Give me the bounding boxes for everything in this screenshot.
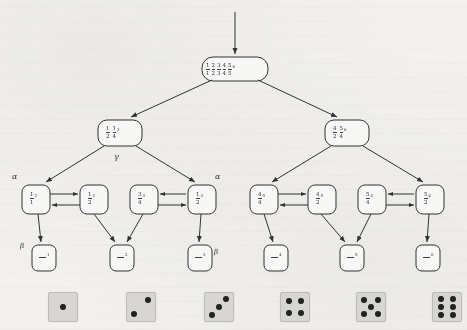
die-5-pip-2: [375, 297, 381, 303]
die-3-pip-1: [223, 296, 229, 302]
node-root-box: [202, 57, 268, 81]
die-5-pip-5: [375, 311, 381, 317]
node-l3-3-box: [130, 185, 158, 214]
node-leaf-3-box: [188, 245, 212, 271]
edge-l2right-l3-5: [272, 146, 331, 182]
node-l2-left-box: [98, 120, 142, 146]
edge-root-l2right: [258, 80, 337, 117]
node-leaf-5-box: [340, 245, 364, 271]
die-face-5: [356, 292, 386, 322]
die-face-2: [126, 292, 156, 322]
node-leaf-1-box: [32, 245, 56, 271]
node-l3-6-box: [308, 185, 336, 214]
node-l3-2-box: [80, 185, 108, 214]
die-2-pip-2: [131, 311, 137, 317]
node-l2-right-box: [325, 120, 369, 146]
edge-root-l2left: [131, 80, 212, 117]
edge-l3-8-leaf-6: [427, 214, 429, 242]
edge-l3-2-leaf-2: [94, 214, 115, 242]
edge-l2left-l3-1: [46, 146, 104, 182]
edge-l3-3-leaf-2: [127, 214, 143, 242]
die-face-4: [280, 292, 310, 322]
die-6-pip-1: [438, 296, 444, 302]
die-4-pip-3: [286, 310, 292, 316]
node-l3-1-box: [22, 185, 50, 214]
edge-l3-7-leaf-5: [357, 214, 371, 242]
die-6-pip-2: [450, 296, 456, 302]
node-l3-4-box: [188, 185, 216, 214]
die-2-pip-1: [145, 297, 151, 303]
die-6-pip-4: [450, 304, 456, 310]
die-6-pip-5: [438, 312, 444, 318]
node-l3-8-box: [416, 185, 444, 214]
edge-l2left-l3-4: [136, 146, 195, 182]
edge-l3-6-leaf-5: [321, 214, 345, 242]
die-3-pip-2: [216, 304, 222, 310]
figure-canvas: 11223344556 12143 42546 112 122 343 123 …: [0, 0, 467, 330]
die-5-pip-1: [361, 297, 367, 303]
edge-l3-5-leaf-4: [264, 214, 273, 242]
node-leaf-2-box: [110, 245, 134, 271]
die-1-pip-1: [60, 304, 66, 310]
node-leaf-4-box: [264, 245, 288, 271]
die-6-pip-6: [450, 312, 456, 318]
diagram-svg: [0, 0, 467, 330]
node-l3-7-box: [358, 185, 386, 214]
die-face-3: [204, 292, 234, 322]
die-3-pip-3: [209, 312, 215, 318]
edge-l3-4-leaf-3: [199, 214, 201, 242]
die-face-6: [432, 292, 462, 322]
edge-l2right-l3-8: [363, 146, 423, 182]
die-4-pip-2: [298, 298, 304, 304]
node-leaf-6-box: [416, 245, 440, 271]
node-l3-5-box: [250, 185, 278, 214]
die-4-pip-4: [298, 310, 304, 316]
edge-l3-1-leaf-1: [38, 214, 41, 242]
die-5-pip-4: [361, 311, 367, 317]
die-face-1: [48, 292, 78, 322]
die-4-pip-1: [286, 298, 292, 304]
die-5-pip-3: [368, 304, 374, 310]
die-6-pip-3: [438, 304, 444, 310]
